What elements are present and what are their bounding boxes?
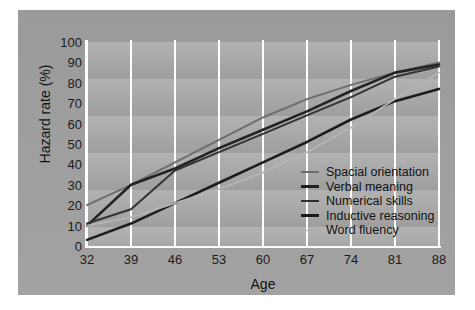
legend-swatch-icon	[301, 230, 319, 231]
legend-swatch-icon	[301, 185, 319, 188]
y-tick-label: 70	[68, 96, 82, 111]
legend-label: Inductive reasoning	[326, 209, 434, 223]
legend-label: Word fluency	[326, 223, 399, 237]
legend-swatch-icon	[301, 171, 319, 173]
x-axis-label: Age	[87, 276, 439, 292]
y-axis-label: Hazard rate (%)	[37, 24, 53, 204]
x-tick-label: 53	[212, 252, 226, 267]
x-tick-label: 81	[388, 252, 402, 267]
x-tick-label: 39	[124, 252, 138, 267]
legend-item: Verbal meaning	[301, 180, 434, 195]
y-tick-label: 20	[68, 198, 82, 213]
chart-legend: Spacial orientationVerbal meaningNumeric…	[301, 165, 434, 238]
legend-swatch-icon	[301, 200, 319, 202]
x-tick-label: 32	[80, 252, 94, 267]
legend-item: Word fluency	[301, 223, 434, 238]
legend-item: Numerical skills	[301, 194, 434, 209]
y-tick-label: 10	[68, 218, 82, 233]
y-tick-label: 60	[68, 116, 82, 131]
y-tick-label: 50	[68, 137, 82, 152]
y-tick-label: 100	[60, 35, 82, 50]
y-tick-label: 30	[68, 177, 82, 192]
x-tick-label: 88	[432, 252, 446, 267]
y-tick-label: 80	[68, 75, 82, 90]
x-tick-label: 46	[168, 252, 182, 267]
x-tick-label: 74	[344, 252, 358, 267]
legend-item: Inductive reasoning	[301, 209, 434, 224]
legend-label: Numerical skills	[326, 194, 413, 208]
x-axis-ticks: 323946536067748188	[87, 252, 439, 272]
legend-label: Verbal meaning	[326, 180, 413, 194]
chart-panel: 1009080706050403020100 Hazard rate (%) 3…	[18, 10, 455, 295]
y-tick-label: 40	[68, 157, 82, 172]
legend-label: Spacial orientation	[326, 165, 429, 179]
x-tick-label: 60	[256, 252, 270, 267]
legend-swatch-icon	[301, 214, 319, 217]
figure-container: 1009080706050403020100 Hazard rate (%) 3…	[0, 0, 475, 310]
x-tick-label: 67	[300, 252, 314, 267]
y-tick-label: 90	[68, 55, 82, 70]
legend-item: Spacial orientation	[301, 165, 434, 180]
